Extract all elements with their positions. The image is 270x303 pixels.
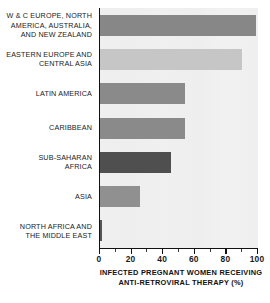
category-label-line: AFRICA xyxy=(0,162,92,171)
category-label-line: EASTERN EUROPE AND xyxy=(0,50,92,59)
category-label: CARIBBEAN xyxy=(0,123,92,132)
category-label-line: NORTH AFRICA AND xyxy=(0,222,92,231)
category-label-line: AMERICA, AUSTRALIA, xyxy=(0,21,92,30)
category-label-line: CARIBBEAN xyxy=(0,123,92,132)
bar xyxy=(100,83,185,104)
x-axis-title-line-1: INFECTED PREGNANT WOMEN RECEIVING xyxy=(96,268,266,278)
bar-chart: W & C EUROPE, NORTHAMERICA, AUSTRALIA,AN… xyxy=(0,0,270,303)
bar xyxy=(100,152,171,173)
category-label-line: W & C EUROPE, NORTH xyxy=(0,11,92,20)
x-tick-minor xyxy=(210,249,211,252)
x-tick-minor xyxy=(146,249,147,252)
category-label: ASIA xyxy=(0,192,92,201)
category-label: W & C EUROPE, NORTHAMERICA, AUSTRALIA,AN… xyxy=(0,11,92,39)
x-tick-label: 20 xyxy=(118,254,144,264)
x-tick-major xyxy=(257,249,258,254)
bar xyxy=(100,186,140,207)
plot-area xyxy=(100,8,258,248)
bar xyxy=(100,49,242,70)
category-label: EASTERN EUROPE ANDCENTRAL ASIA xyxy=(0,50,92,68)
x-tick-major xyxy=(99,249,100,254)
x-tick-major xyxy=(131,249,132,254)
category-label: SUB-SAHARANAFRICA xyxy=(0,153,92,171)
x-axis-title-line-2: ANTI-RETROVIRAL THERAPY (%) xyxy=(96,278,266,288)
category-label-line: CENTRAL ASIA xyxy=(0,59,92,68)
x-tick-label: 60 xyxy=(181,254,207,264)
category-label: LATIN AMERICA xyxy=(0,89,92,98)
category-label-line: AND NEW ZEALAND xyxy=(0,30,92,39)
y-axis-line xyxy=(99,8,100,248)
x-tick-minor xyxy=(241,249,242,252)
category-label-line: SUB-SAHARAN xyxy=(0,153,92,162)
x-tick-label: 100 xyxy=(244,254,270,264)
category-labels-column: W & C EUROPE, NORTHAMERICA, AUSTRALIA,AN… xyxy=(0,8,96,248)
x-tick-minor xyxy=(178,249,179,252)
category-label-line: THE MIDDLE EAST xyxy=(0,231,92,240)
bar xyxy=(100,118,185,139)
category-label: NORTH AFRICA ANDTHE MIDDLE EAST xyxy=(0,222,92,240)
x-tick-major xyxy=(162,249,163,254)
x-tick-major xyxy=(194,249,195,254)
category-label-line: ASIA xyxy=(0,192,92,201)
bar xyxy=(100,15,256,36)
x-axis-title: INFECTED PREGNANT WOMEN RECEIVING ANTI-R… xyxy=(96,268,266,287)
x-tick-major xyxy=(225,249,226,254)
x-tick-label: 80 xyxy=(212,254,238,264)
x-tick-minor xyxy=(115,249,116,252)
category-label-line: LATIN AMERICA xyxy=(0,89,92,98)
x-tick-label: 40 xyxy=(149,254,175,264)
x-tick-label: 0 xyxy=(86,254,112,264)
